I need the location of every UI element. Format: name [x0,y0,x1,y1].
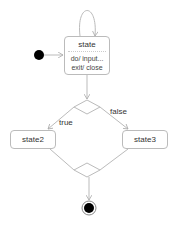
transition-self-loop[interactable] [80,11,96,37]
transition-state2-merge[interactable] [50,149,74,170]
guard-label-true: true [59,118,73,127]
state-action-exit: exit/ close [65,63,109,72]
state-node-state2[interactable]: state2 [10,130,56,149]
guard-label-false: false [110,107,127,116]
state-action-do: do/ input... [65,54,109,63]
state-node-state[interactable]: state do/ input... exit/ close [64,36,110,75]
transition-state3-merge[interactable] [100,149,128,170]
state2-title: state2 [11,135,55,144]
state-node-state3[interactable]: state3 [122,130,168,149]
state3-title: state3 [123,135,167,144]
initial-node[interactable] [34,50,44,60]
state-divider [68,51,106,52]
decision-node[interactable] [74,100,100,114]
state-title: state [65,40,109,49]
diagram-canvas [0,0,178,227]
final-node[interactable] [84,203,94,213]
merge-node[interactable] [74,163,100,177]
